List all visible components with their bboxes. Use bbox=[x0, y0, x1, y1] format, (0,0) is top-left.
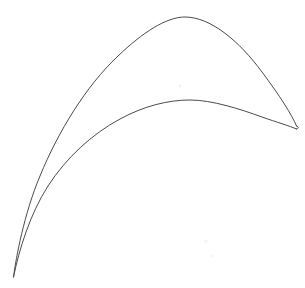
figure-canvas bbox=[0, 0, 305, 288]
scan-speck bbox=[179, 85, 182, 88]
airfoil-profile-drawing bbox=[0, 0, 305, 288]
scan-speck bbox=[204, 239, 208, 243]
drawing-background bbox=[0, 0, 305, 288]
scan-speck bbox=[211, 255, 214, 258]
